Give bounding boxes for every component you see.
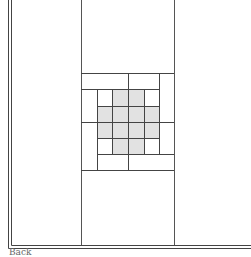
quilt-diagram <box>0 0 251 257</box>
caption-label: Back <box>9 248 31 257</box>
